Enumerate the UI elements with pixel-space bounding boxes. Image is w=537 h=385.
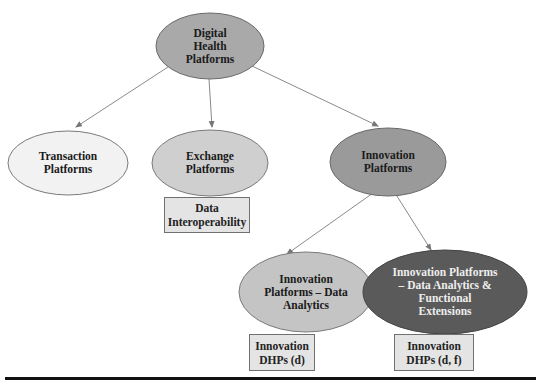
label-innovation-platforms: Innovation Platforms	[338, 141, 438, 183]
label-line: Extensions	[392, 305, 497, 318]
label-line: – Data Analytics &	[392, 279, 497, 292]
label-line: Platforms	[361, 162, 415, 175]
label-line: Platforms	[39, 163, 98, 176]
diagram-canvas: Digital Health Platforms Transaction Pla…	[0, 0, 537, 385]
label-exchange-platforms: Exchange Platforms	[160, 142, 260, 184]
label-transaction-platforms: Transaction Platforms	[18, 142, 118, 184]
label-line: Platforms	[186, 163, 235, 176]
edge-innovation-da	[287, 193, 373, 254]
box-data-interoperability: Data Interoperability	[164, 197, 250, 233]
label-line: Innovation	[264, 273, 348, 286]
edge-root-transaction	[76, 67, 168, 127]
label-line: Platforms	[186, 53, 235, 66]
edge-root-exchange	[209, 79, 212, 127]
box-line: DHPs (d)	[255, 353, 309, 367]
label-line: Exchange	[186, 150, 235, 163]
label-line: Innovation	[361, 149, 415, 162]
label-line: Health	[186, 40, 235, 53]
box-innovation-dhps-d: Innovation DHPs (d)	[249, 334, 315, 371]
box-line: DHPs (d, f)	[406, 353, 461, 367]
label-line: Innovation Platforms	[392, 266, 497, 279]
label-line: Transaction	[39, 150, 98, 163]
label-line: Functional	[392, 292, 497, 305]
box-line: Innovation	[406, 339, 461, 353]
box-line: Data	[168, 201, 246, 215]
label-innovation-data-analytics: Innovation Platforms – Data Analytics	[246, 268, 366, 316]
edge-innovation-dafe	[395, 193, 431, 250]
diagram-graphics	[0, 0, 537, 385]
box-line: Innovation	[255, 339, 309, 353]
label-line: Digital	[186, 27, 235, 40]
label-line: Platforms – Data	[264, 286, 348, 299]
bottom-rule	[5, 377, 536, 380]
box-innovation-dhps-d-f: Innovation DHPs (d, f)	[394, 334, 474, 371]
label-line: Analytics	[264, 299, 348, 312]
label-innovation-data-analytics-functional-extensions: Innovation Platforms – Data Analytics & …	[375, 262, 515, 322]
box-line: Interoperability	[168, 215, 246, 229]
edge-root-innovation	[252, 66, 378, 126]
label-digital-health-platforms: Digital Health Platforms	[160, 20, 260, 72]
